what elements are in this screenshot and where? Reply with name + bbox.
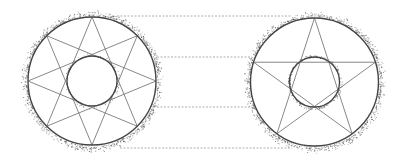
right-figure-pentagram — [251, 18, 379, 146]
left-outer-circle — [28, 17, 156, 145]
right-outer-circle — [251, 18, 379, 146]
left-figure-octagram — [28, 17, 156, 145]
right-inner-circle — [290, 57, 340, 107]
diagram-svg — [0, 0, 401, 160]
right-outer-stipple — [244, 12, 385, 154]
right-star-edge — [277, 18, 315, 134]
stipple-texture — [21, 10, 386, 153]
right-star — [254, 18, 376, 134]
diagram-canvas: Star polygons inscribed in circles Octag… — [0, 0, 401, 160]
left-outer-stipple — [21, 10, 164, 152]
right-star-edge — [315, 18, 353, 134]
right-inner-stipple — [287, 55, 343, 110]
left-inner-circle — [67, 56, 117, 106]
